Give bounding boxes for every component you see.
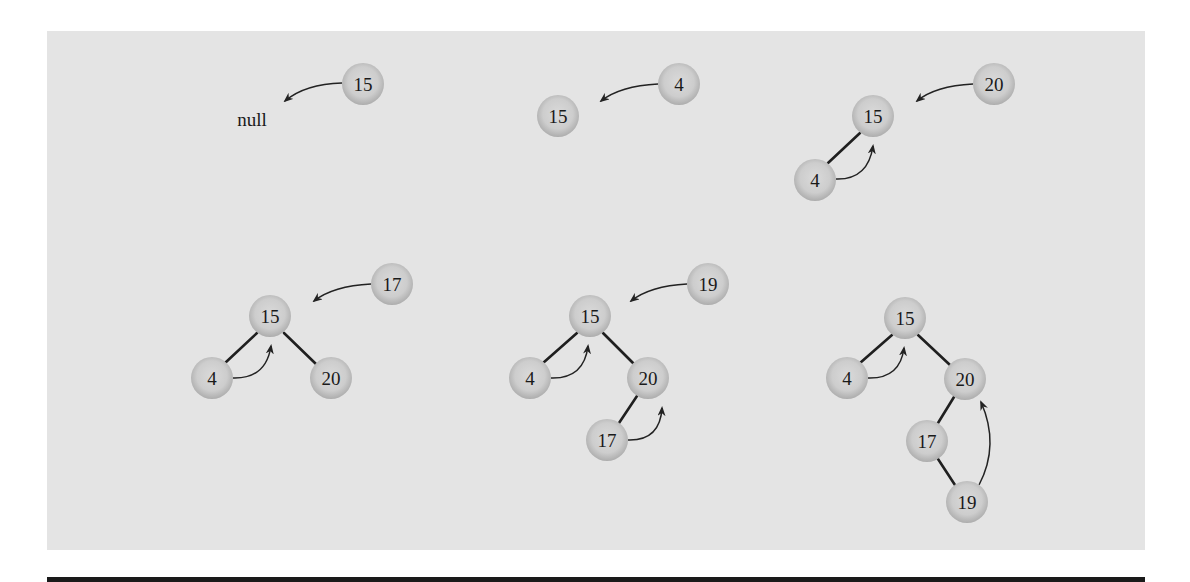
svg-text:15: 15 [549, 106, 568, 127]
left-node-4: 4 [794, 159, 836, 201]
null-label: null [237, 109, 267, 130]
svg-text:15: 15 [896, 308, 915, 329]
edge-15-20 [284, 333, 316, 364]
svg-text:15: 15 [581, 306, 600, 327]
edge-20-17 [619, 396, 637, 423]
edge-17-19 [938, 459, 955, 485]
step-3-insert-20: 20 15 4 [794, 63, 1015, 201]
left-node-4: 4 [509, 357, 551, 399]
new-node-4: 4 [658, 63, 700, 105]
root-node-15: 15 [569, 295, 611, 337]
svg-text:15: 15 [261, 306, 280, 327]
edge-15-4 [225, 333, 257, 363]
svg-text:4: 4 [842, 368, 852, 389]
new-node-17: 17 [371, 263, 413, 305]
step-4-insert-17: 17 15 4 20 [191, 263, 413, 399]
right-node-20: 20 [944, 358, 986, 400]
svg-text:17: 17 [383, 274, 402, 295]
right-left-node-17: 17 [906, 420, 948, 462]
root-node-15: 15 [884, 297, 926, 339]
svg-text:20: 20 [956, 369, 975, 390]
edge-15-4 [828, 133, 860, 163]
step-2-insert-4: 4 15 [537, 63, 700, 137]
left-node-4: 4 [826, 357, 868, 399]
svg-text:19: 19 [699, 274, 718, 295]
svg-text:20: 20 [639, 368, 658, 389]
svg-text:17: 17 [598, 430, 617, 451]
root-node-15: 15 [537, 95, 579, 137]
svg-text:15: 15 [354, 74, 373, 95]
bottom-divider-bar [47, 577, 1145, 582]
new-node-15: 15 [342, 63, 384, 105]
svg-text:4: 4 [207, 368, 217, 389]
edge-20-17 [938, 397, 954, 423]
insert-arrow [285, 83, 342, 101]
new-node-20: 20 [973, 63, 1015, 105]
svg-text:4: 4 [810, 170, 820, 191]
svg-text:17: 17 [918, 431, 937, 452]
link-arrow-19-to-20 [979, 402, 990, 485]
insert-arrow [631, 284, 687, 301]
svg-text:20: 20 [322, 368, 341, 389]
right-node-20: 20 [627, 357, 669, 399]
step-5-insert-19: 19 15 4 20 17 [509, 263, 729, 461]
svg-text:19: 19 [958, 492, 977, 513]
right-node-20: 20 [310, 357, 352, 399]
svg-text:4: 4 [674, 74, 684, 95]
step-6-final-tree: 15 4 20 17 19 [826, 297, 990, 523]
root-node-15: 15 [852, 95, 894, 137]
edge-15-4 [543, 333, 577, 363]
left-node-4: 4 [191, 357, 233, 399]
root-node-15: 15 [249, 295, 291, 337]
new-node-19: 19 [687, 263, 729, 305]
right-left-right-node-19: 19 [946, 481, 988, 523]
svg-text:4: 4 [525, 368, 535, 389]
insert-arrow [917, 84, 973, 101]
edge-15-20 [918, 335, 950, 365]
svg-text:20: 20 [985, 74, 1004, 95]
step-1-insert-15: 15 null [237, 63, 384, 130]
insert-arrow [314, 284, 371, 301]
link-arrow-17-to-20 [628, 408, 662, 440]
svg-text:15: 15 [864, 106, 883, 127]
edge-15-20 [603, 333, 634, 364]
right-left-node-17: 17 [586, 419, 628, 461]
insert-arrow [601, 84, 658, 101]
edge-15-4 [860, 335, 892, 363]
bst-insertion-diagram: 15 null 4 15 20 15 4 [0, 0, 1190, 582]
